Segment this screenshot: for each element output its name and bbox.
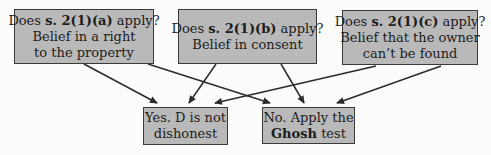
outcome-box-not-dishonest: Yes. D is not dishonest [143,107,228,145]
question-line: Belief in a right [32,29,135,45]
question-line: Does s. 2(1)(b) apply? [172,21,324,37]
question-line: Does s. 2(1)(c) apply? [335,14,486,30]
outcome-line: Yes. D is not [145,110,226,126]
outcome-line: Ghosh test [271,126,346,142]
flowchart: Does s. 2(1)(a) apply? Belief in a right… [0,0,491,155]
question-line: Belief that the owner [340,30,480,46]
question-line: to the property [34,45,134,61]
question-box-s21b: Does s. 2(1)(b) apply? Belief in consent [178,9,317,64]
outcome-box-ghosh-test: No. Apply the Ghosh test [262,107,355,144]
arrow-qb-to-yes [189,64,216,103]
question-line: Does s. 2(1)(a) apply? [8,13,159,29]
question-box-s21a: Does s. 2(1)(a) apply? Belief in a right… [14,9,154,64]
outcome-line: No. Apply the [263,110,353,126]
question-line: Belief in consent [192,37,302,53]
arrow-qa-to-yes [84,64,157,103]
question-line: can’t be found [363,46,458,62]
arrow-qa-to-no [148,64,270,103]
outcome-line: dishonest [154,126,217,142]
question-box-s21c: Does s. 2(1)(c) apply? Belief that the o… [342,10,478,65]
